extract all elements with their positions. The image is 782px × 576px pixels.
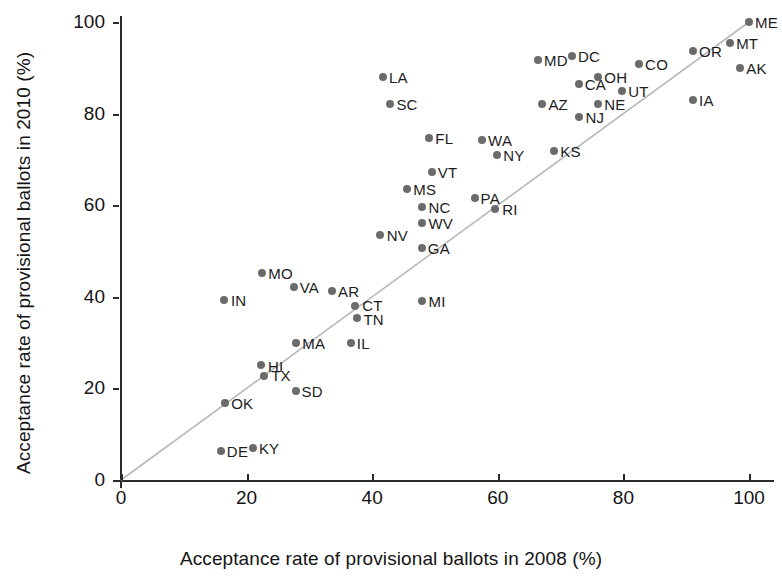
y-tick-mark xyxy=(113,205,119,207)
data-point-label-ia: IA xyxy=(699,92,714,109)
data-point-label-ut: UT xyxy=(628,83,648,100)
data-point-in xyxy=(220,296,228,304)
data-point-label-az: AZ xyxy=(548,96,568,113)
x-tick-mark xyxy=(623,474,625,480)
data-point-label-ks: KS xyxy=(560,143,580,160)
x-tick-label: 60 xyxy=(487,487,508,509)
data-point-or xyxy=(689,47,697,55)
data-point-label-va: VA xyxy=(300,279,319,296)
data-point-label-ok: OK xyxy=(231,395,253,412)
data-point-label-md: MD xyxy=(544,52,568,69)
data-point-md xyxy=(534,56,542,64)
data-point-ms xyxy=(403,185,411,193)
data-point-la xyxy=(379,73,387,81)
x-tick-mark xyxy=(498,474,500,480)
data-point-label-ny: NY xyxy=(503,147,524,164)
data-point-co xyxy=(635,60,643,68)
data-point-nj xyxy=(575,113,583,121)
data-point-label-dc: DC xyxy=(578,48,600,65)
data-point-label-co: CO xyxy=(645,56,668,73)
data-point-ut xyxy=(618,87,626,95)
data-point-nv xyxy=(376,231,384,239)
data-point-label-ga: GA xyxy=(428,240,450,257)
data-point-label-wv: WV xyxy=(428,215,453,232)
data-point-ky xyxy=(249,444,257,452)
data-point-ca xyxy=(575,80,583,88)
data-point-wv xyxy=(418,219,426,227)
data-point-label-la: LA xyxy=(389,69,408,86)
data-point-il xyxy=(347,339,355,347)
data-point-ar xyxy=(328,287,336,295)
data-point-label-mt: MT xyxy=(736,35,758,52)
x-tick-label: 80 xyxy=(613,487,634,509)
data-point-ne xyxy=(594,100,602,108)
data-point-me xyxy=(745,18,753,26)
data-point-hi xyxy=(257,361,265,369)
data-point-ct xyxy=(351,302,359,310)
data-point-label-nj: NJ xyxy=(585,109,604,126)
y-tick-label: 60 xyxy=(84,194,105,216)
data-point-dc xyxy=(568,52,576,60)
data-point-ny xyxy=(493,151,501,159)
data-point-label-ri: RI xyxy=(502,201,517,218)
data-point-label-de: DE xyxy=(227,443,248,460)
x-tick-mark xyxy=(121,474,123,480)
data-point-ia xyxy=(689,96,697,104)
data-point-wa xyxy=(478,136,486,144)
data-point-label-mi: MI xyxy=(428,293,445,310)
data-point-mi xyxy=(418,297,426,305)
scatter-plot-figure: Acceptance rate of provisional ballots i… xyxy=(0,0,782,576)
y-tick-mark xyxy=(113,22,119,24)
data-point-label-oh: OH xyxy=(604,69,627,86)
data-point-tx xyxy=(260,372,268,380)
data-point-label-pa: PA xyxy=(481,190,500,207)
y-tick-mark xyxy=(113,114,119,116)
x-axis-line xyxy=(114,480,774,482)
data-point-label-ar: AR xyxy=(338,283,359,300)
data-point-label-tn: TN xyxy=(364,311,384,328)
data-point-fl xyxy=(425,134,433,142)
data-point-ks xyxy=(550,147,558,155)
y-tick-label: 100 xyxy=(73,11,105,33)
y-tick-label: 40 xyxy=(84,286,105,308)
x-tick-mark xyxy=(749,474,751,480)
y-axis-line xyxy=(120,16,122,488)
y-tick-mark xyxy=(113,480,119,482)
data-point-label-sd: SD xyxy=(302,383,323,400)
x-tick-mark xyxy=(247,474,249,480)
data-point-label-or: OR xyxy=(699,43,722,60)
x-tick-label: 20 xyxy=(236,487,257,509)
data-point-ak xyxy=(736,64,744,72)
y-axis-title: Acceptance rate of provisional ballots i… xyxy=(13,13,35,513)
y-tick-label: 20 xyxy=(84,377,105,399)
data-point-label-nc: NC xyxy=(428,199,450,216)
data-point-az xyxy=(538,100,546,108)
data-point-label-fl: FL xyxy=(435,130,453,147)
data-point-sd xyxy=(292,387,300,395)
y-tick-mark xyxy=(113,297,119,299)
data-point-vt xyxy=(428,168,436,176)
data-point-label-ct: CT xyxy=(362,297,382,314)
data-point-label-ne: NE xyxy=(604,96,625,113)
data-point-label-sc: SC xyxy=(396,96,417,113)
y-tick-mark xyxy=(113,388,119,390)
data-point-mt xyxy=(726,39,734,47)
x-tick-label: 0 xyxy=(116,487,127,509)
data-point-ga xyxy=(418,244,426,252)
data-point-sc xyxy=(386,100,394,108)
data-point-label-in: IN xyxy=(231,292,246,309)
data-point-label-ky: KY xyxy=(259,440,279,457)
x-tick-label: 40 xyxy=(362,487,383,509)
x-tick-mark xyxy=(372,474,374,480)
data-point-label-hi: HI xyxy=(268,358,283,375)
data-point-de xyxy=(217,447,225,455)
data-point-pa xyxy=(471,194,479,202)
data-point-label-mo: MO xyxy=(268,265,293,282)
data-point-ma xyxy=(292,339,300,347)
data-point-label-il: IL xyxy=(357,335,370,352)
data-point-label-ak: AK xyxy=(746,60,766,77)
data-point-label-wa: WA xyxy=(488,132,512,149)
data-point-label-me: ME xyxy=(755,14,778,31)
data-point-ok xyxy=(221,399,229,407)
data-point-label-ms: MS xyxy=(413,181,436,198)
